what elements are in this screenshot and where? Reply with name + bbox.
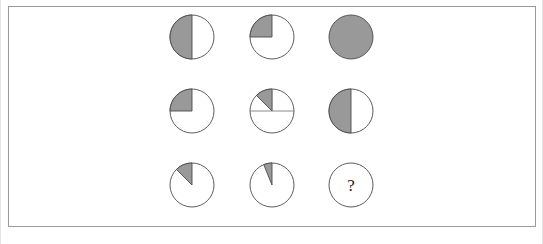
missing-cell-question-mark: ?	[329, 163, 373, 207]
page-edge-left	[0, 0, 1, 244]
puzzle-frame: ?	[8, 6, 536, 227]
matrix-overlay-layer: ?	[9, 7, 537, 228]
screenshot-root: ?	[0, 0, 543, 244]
